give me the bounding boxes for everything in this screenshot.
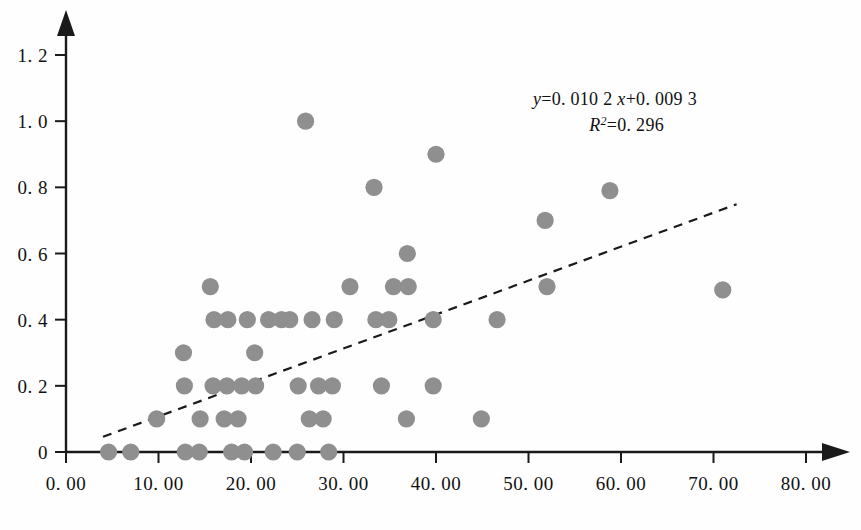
data-point <box>400 278 417 295</box>
x-tick-label: 80. 00 <box>781 473 832 494</box>
data-point <box>191 443 208 460</box>
x-tick-label: 60. 00 <box>596 473 647 494</box>
r-value: 0. 296 <box>617 115 664 135</box>
data-point <box>538 278 555 295</box>
data-point <box>425 377 442 394</box>
data-point <box>176 377 193 394</box>
data-point <box>265 443 282 460</box>
data-point <box>303 311 320 328</box>
y-tick-label: 0. 4 <box>18 310 49 331</box>
r-equals: = <box>607 115 617 135</box>
x-axis-arrowhead <box>822 443 850 461</box>
data-point <box>373 377 390 394</box>
data-point <box>148 410 165 427</box>
y-tick-label: 0 <box>38 442 48 463</box>
data-point <box>380 311 397 328</box>
regression-trendline <box>103 204 737 437</box>
data-point <box>427 146 444 163</box>
data-point <box>219 311 236 328</box>
data-point <box>326 311 343 328</box>
data-point <box>122 443 139 460</box>
x-tick-label: 40. 00 <box>411 473 462 494</box>
data-point <box>218 377 235 394</box>
equation-x-symbol: x <box>616 89 625 109</box>
x-tick-label: 30. 00 <box>318 473 369 494</box>
y-tick-label: 1. 0 <box>18 111 49 132</box>
data-point <box>714 281 731 298</box>
x-tick-label: 50. 00 <box>503 473 554 494</box>
data-point <box>247 377 264 394</box>
data-point <box>297 113 314 130</box>
equation-intercept: 0. 009 3 <box>636 89 697 109</box>
chart-canvas: 0. 0010. 0020. 0030. 0040. 0050. 0060. 0… <box>0 0 861 530</box>
y-tick-label: 1. 2 <box>18 45 49 66</box>
data-point <box>289 443 306 460</box>
equation-y-symbol: y <box>531 89 541 109</box>
y-tick-label: 0. 6 <box>18 244 49 265</box>
data-point <box>202 278 219 295</box>
data-point <box>175 344 192 361</box>
equation-slope: 0. 010 2 <box>552 89 613 109</box>
data-point <box>537 212 554 229</box>
x-tick-label: 20. 00 <box>226 473 277 494</box>
x-axis-tick-labels: 0. 0010. 0020. 0030. 0040. 0050. 0060. 0… <box>46 473 832 494</box>
data-point <box>236 443 253 460</box>
data-point <box>365 179 382 196</box>
data-point <box>399 245 416 262</box>
data-point <box>488 311 505 328</box>
data-point <box>315 410 332 427</box>
y-tick-label: 0. 8 <box>18 177 49 198</box>
data-point <box>246 344 263 361</box>
data-point <box>473 410 490 427</box>
data-point <box>324 377 341 394</box>
data-point <box>239 311 256 328</box>
scatter-plot-figure: 0. 0010. 0020. 0030. 0040. 0050. 0060. 0… <box>0 0 861 530</box>
y-tick-label: 0. 2 <box>18 376 49 397</box>
axes-group <box>57 10 850 461</box>
equation-equals: = <box>541 89 551 109</box>
data-point <box>100 443 117 460</box>
data-point <box>281 311 298 328</box>
data-point <box>192 410 209 427</box>
x-tick-label: 70. 00 <box>688 473 739 494</box>
x-tick-label: 0. 00 <box>46 473 87 494</box>
r-squared-label: R2=0. 296 <box>588 114 664 135</box>
data-point <box>425 311 442 328</box>
r-symbol: R <box>588 115 600 135</box>
x-tick-label: 10. 00 <box>133 473 184 494</box>
data-point <box>320 443 337 460</box>
data-point <box>398 410 415 427</box>
data-point <box>601 182 618 199</box>
y-axis-tick-labels: 00. 20. 40. 60. 81. 01. 2 <box>18 45 49 463</box>
regression-equation-label: y=0. 010 2 x+0. 009 3 <box>531 89 697 109</box>
equation-plus: + <box>626 89 636 109</box>
data-point <box>229 410 246 427</box>
y-axis-arrowhead <box>57 10 75 36</box>
data-points-group <box>100 113 731 461</box>
data-point <box>385 278 402 295</box>
data-point <box>290 377 307 394</box>
data-point <box>341 278 358 295</box>
